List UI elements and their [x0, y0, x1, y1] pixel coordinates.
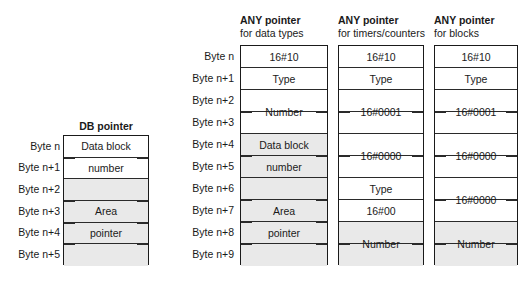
any-timers-counters-span-tick	[412, 156, 423, 157]
any-blocks-span-tick	[435, 244, 446, 245]
any-data-types-span-tick	[241, 112, 252, 113]
db-pointer-byte-label: Byte n+2	[18, 184, 60, 195]
any-data-types-span-tick	[316, 112, 327, 113]
any-blocks-row	[435, 222, 517, 244]
any-blocks-span-tick	[435, 200, 446, 201]
any-timers-counters-span-tick	[412, 112, 423, 113]
any-pointer-byte-labels: Byte nByte n+1Byte n+2Byte n+3Byte n+4By…	[178, 45, 234, 265]
db-pointer-table: Data blocknumberAreapointer	[63, 135, 149, 265]
any-blocks-heading: ANY pointer for blocks	[434, 14, 494, 39]
db-pointer-row-tick	[137, 201, 148, 202]
any-timers-counters-row	[339, 222, 423, 244]
any-pointer-byte-label: Byte n+4	[192, 139, 234, 150]
any-blocks-row	[435, 90, 517, 112]
db-pointer-byte-labels: Byte nByte n+1Byte n+2Byte n+3Byte n+4By…	[0, 135, 60, 265]
any-data-types-row-tick	[316, 222, 327, 223]
db-pointer-byte-label: Byte n+5	[18, 249, 60, 260]
any-data-types-row-tick	[241, 200, 252, 201]
db-pointer-row	[64, 244, 148, 266]
any-timers-counters-row	[339, 244, 423, 266]
any-blocks-span-tick	[506, 200, 517, 201]
any-data-types-row-tick	[316, 244, 327, 245]
any-timers-counters-row	[339, 134, 423, 156]
any-data-types-row	[241, 178, 327, 200]
any-blocks-row	[435, 244, 517, 266]
any-timers-counters-span-tick	[339, 244, 350, 245]
any-pointer-byte-label: Byte n+7	[192, 205, 234, 216]
any-data-types-row-tick	[316, 200, 327, 201]
db-pointer-row-tick	[137, 244, 148, 245]
any-timers-counters-table: 16#10Type16#000116#0000Type16#00Number	[338, 45, 424, 265]
db-pointer-byte-label: Byte n+4	[18, 227, 60, 238]
any-data-types-row-tick	[241, 222, 252, 223]
any-data-types-heading-strong: ANY pointer	[240, 14, 304, 27]
any-data-types-row	[241, 222, 327, 244]
any-blocks-row	[435, 134, 517, 156]
any-timers-counters-span-tick	[339, 112, 350, 113]
any-timers-counters-row	[339, 178, 423, 200]
any-blocks-span-tick	[506, 156, 517, 157]
any-timers-counters-row	[339, 90, 423, 112]
db-pointer-row-tick	[137, 223, 148, 224]
db-pointer-row	[64, 158, 148, 180]
any-data-types-row	[241, 156, 327, 178]
any-data-types-row	[241, 134, 327, 156]
any-data-types-row	[241, 90, 327, 112]
any-timers-counters-heading-sub: for timers/counters	[338, 27, 425, 40]
db-pointer-row	[64, 201, 148, 223]
any-data-types-row	[241, 46, 327, 68]
any-pointer-byte-label: Byte n+1	[192, 73, 234, 84]
any-blocks-span-tick	[506, 112, 517, 113]
db-pointer-row-tick	[64, 158, 75, 159]
any-timers-counters-row	[339, 68, 423, 90]
any-blocks-row	[435, 178, 517, 200]
any-timers-counters-row	[339, 46, 423, 68]
any-data-types-row	[241, 112, 327, 134]
any-timers-counters-row	[339, 156, 423, 178]
any-blocks-row	[435, 68, 517, 90]
any-blocks-span-tick	[435, 112, 446, 113]
any-data-types-heading-sub: for data types	[240, 27, 304, 40]
db-pointer-heading: DB pointer	[63, 120, 149, 133]
any-timers-counters-row	[339, 112, 423, 134]
any-pointer-byte-label: Byte n+2	[192, 95, 234, 106]
any-pointer-byte-label: Byte n	[204, 51, 234, 62]
db-pointer-row-tick	[64, 244, 75, 245]
any-data-types-row-tick	[241, 244, 252, 245]
any-data-types-heading: ANY pointer for data types	[240, 14, 304, 39]
any-pointer-byte-label: Byte n+8	[192, 227, 234, 238]
any-blocks-row	[435, 200, 517, 222]
any-data-types-row	[241, 68, 327, 90]
db-pointer-byte-label: Byte n+1	[18, 162, 60, 173]
db-pointer-byte-label: Byte n+3	[18, 206, 60, 217]
any-timers-counters-span-tick	[412, 244, 423, 245]
any-data-types-row	[241, 244, 327, 266]
any-data-types-row-tick	[316, 156, 327, 157]
any-timers-counters-row	[339, 200, 423, 222]
any-data-types-table: 16#10TypeNumberData blocknumberAreapoint…	[240, 45, 328, 265]
db-pointer-row-tick	[137, 158, 148, 159]
any-blocks-heading-sub: for blocks	[434, 27, 494, 40]
any-blocks-heading-strong: ANY pointer	[434, 14, 494, 27]
any-blocks-span-tick	[435, 156, 446, 157]
any-pointer-byte-label: Byte n+6	[192, 183, 234, 194]
any-timers-counters-span-tick	[339, 156, 350, 157]
db-pointer-row-tick	[64, 223, 75, 224]
db-pointer-row	[64, 223, 148, 245]
any-blocks-row	[435, 156, 517, 178]
any-pointer-byte-label: Byte n+5	[192, 161, 234, 172]
any-data-types-row	[241, 200, 327, 222]
any-data-types-row-tick	[241, 156, 252, 157]
any-blocks-row	[435, 112, 517, 134]
db-pointer-row	[64, 179, 148, 201]
diagram-canvas: DB pointer Byte nByte n+1Byte n+2Byte n+…	[0, 0, 522, 284]
any-pointer-byte-label: Byte n+3	[192, 117, 234, 128]
db-pointer-byte-label: Byte n	[30, 141, 60, 152]
any-pointer-byte-label: Byte n+9	[192, 249, 234, 260]
any-timers-counters-heading: ANY pointer for timers/counters	[338, 14, 425, 39]
db-pointer-row-tick	[64, 201, 75, 202]
any-blocks-span-tick	[506, 244, 517, 245]
any-blocks-table: 16#10Type16#000116#000016#0000Number	[434, 45, 518, 265]
any-timers-counters-heading-strong: ANY pointer	[338, 14, 425, 27]
any-blocks-row	[435, 46, 517, 68]
